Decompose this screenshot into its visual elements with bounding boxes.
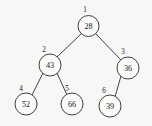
node-index-label-4: 4 <box>19 85 23 93</box>
tree-node-4[interactable]: 524 <box>15 85 37 115</box>
node-index-label-6: 6 <box>102 87 106 95</box>
node-value-3: 36 <box>124 64 132 73</box>
node-value-5: 66 <box>68 100 76 109</box>
node-index-label-3: 3 <box>121 48 125 56</box>
tree-edge-1-3 <box>96 34 121 60</box>
tree-node-3[interactable]: 363 <box>117 48 139 79</box>
binary-tree-graphic: 281432363524665396 <box>0 0 152 126</box>
node-index-label-1: 1 <box>83 6 87 14</box>
tree-node-6[interactable]: 396 <box>99 87 121 117</box>
tree-node-2[interactable]: 432 <box>39 46 61 76</box>
node-index-label-2: 2 <box>42 46 46 54</box>
tree-edge-1-2 <box>57 34 81 57</box>
node-index-label-5: 5 <box>65 85 69 93</box>
tree-edge-2-4 <box>32 73 43 95</box>
node-value-1: 28 <box>84 22 92 31</box>
tree-node-5[interactable]: 665 <box>61 85 83 115</box>
tree-diagram-canvas: 281432363524665396 <box>0 0 152 126</box>
node-value-4: 52 <box>22 100 30 109</box>
tree-node-1[interactable]: 281 <box>78 6 99 37</box>
node-value-2: 43 <box>46 61 54 70</box>
node-value-6: 39 <box>106 102 114 111</box>
tree-edge-3-6 <box>115 76 121 97</box>
